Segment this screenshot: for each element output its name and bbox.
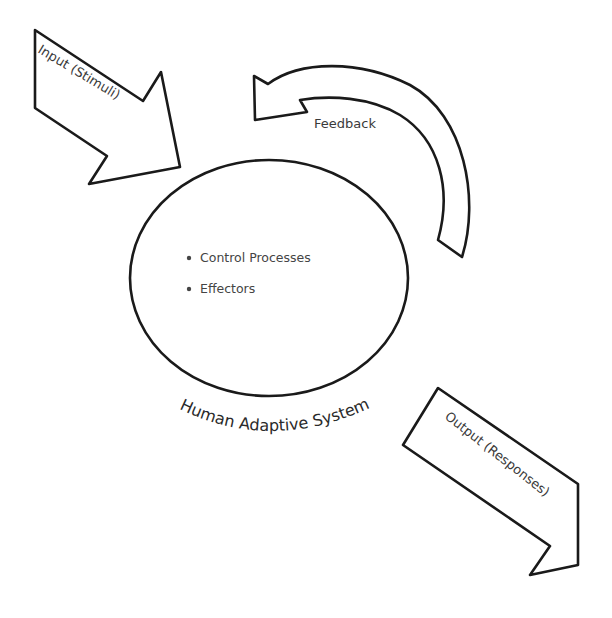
output-arrow-shape <box>403 388 578 575</box>
system-label-path: Human Adaptive System <box>177 394 372 435</box>
bullet-dot <box>187 256 191 260</box>
image-crop-mask <box>580 470 612 580</box>
human-adaptive-system-diagram: Input (Stimuli) Feedback Control Process… <box>0 0 612 618</box>
system-label: Human Adaptive System <box>177 394 372 435</box>
bullet-dot <box>187 287 191 291</box>
input-arrow: Input (Stimuli) <box>35 30 180 184</box>
bullet-effectors: Effectors <box>200 281 255 296</box>
output-arrow: Output (Responses) <box>403 388 612 580</box>
feedback-label: Feedback <box>314 116 376 131</box>
human-adaptive-system: Control Processes Effectors Human Adapti… <box>130 160 408 435</box>
system-circle <box>130 160 408 396</box>
bullet-control-processes: Control Processes <box>200 250 311 265</box>
